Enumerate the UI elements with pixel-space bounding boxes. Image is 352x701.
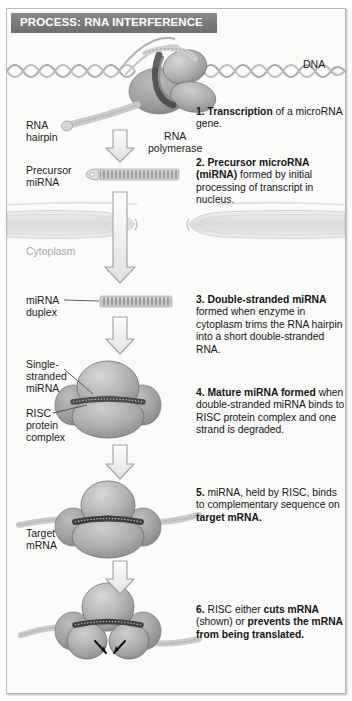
label-mirna-duplex: miRNA duplex [26, 294, 59, 318]
label-precursor-mirna: Precursor miRNA [26, 164, 72, 188]
flow-arrow-2-icon [105, 192, 135, 283]
leader-mirna-duplex [64, 300, 99, 301]
step-4-bold-lead: Mature miRNA formed [207, 387, 315, 398]
step-3-text: 3. Double-stranded miRNA formed when enz… [196, 294, 346, 356]
step-3-bold-lead: Double-stranded miRNA [207, 294, 326, 305]
label-single-stranded-mirna: Single- stranded miRNA [26, 358, 67, 395]
mirna-duplex-graphic [100, 296, 172, 307]
figure-panel: PROCESS: RNA INTERFERENCE [6, 8, 346, 694]
leader-lines [53, 300, 99, 413]
step-5-number: 5. [196, 487, 205, 498]
label-rna-hairpin: RNA hairpin [26, 119, 58, 143]
flow-arrow-3-icon [106, 317, 134, 354]
step-6-number: 6. [196, 604, 205, 615]
step-5-bold-tail: target mRNA. [196, 512, 262, 523]
risc-cutting-mrna-graphic [21, 583, 199, 659]
step-3-rest: formed when enzyme in cytoplasm trims th… [196, 306, 343, 354]
label-risc-protein-complex: RISC protein complex [26, 407, 65, 444]
flow-arrow-5-icon [106, 561, 134, 594]
nuclear-membrane-graphic [7, 203, 345, 239]
label-rna-polymerase: RNA polymerase [148, 130, 202, 154]
step-3-number: 3. [196, 294, 205, 305]
label-dna: DNA [303, 58, 325, 70]
rna-hairpin-graphic [62, 105, 138, 131]
flow-arrow-1-icon [106, 130, 134, 162]
step-6-plain-mid: (shown) or [196, 616, 248, 627]
step-2-number: 2. [196, 157, 205, 168]
precursor-mirna-graphic [86, 169, 179, 180]
step-5-plain-lead: miRNA, held by RISC, binds to complement… [196, 487, 340, 510]
step-2-text: 2. Precursor microRNA (miRNA) formed by … [196, 157, 346, 207]
step-1-number: 1. [196, 106, 205, 117]
step-5-text: 5. miRNA, held by RISC, binds to complem… [196, 487, 346, 524]
step-1-text: 1. Transcription of a microRNA gene. [196, 106, 346, 131]
risc-complex-step4-graphic [55, 361, 161, 438]
banner-title: PROCESS: RNA INTERFERENCE [20, 16, 203, 28]
step-6-bold-mid: cuts mRNA [264, 604, 320, 615]
cut-site-arrows-icon [95, 641, 125, 653]
step-4-text: 4. Mature miRNA formed when double-stran… [196, 387, 346, 437]
dna-helix-graphic [7, 38, 345, 77]
step-6-text: 6. RISC either cuts mRNA (shown) or prev… [196, 604, 346, 641]
step-4-number: 4. [196, 387, 205, 398]
flow-arrow-4-icon [106, 445, 134, 479]
label-cytoplasm: Cytoplasm [26, 245, 76, 257]
step-6-plain-lead: RISC either [205, 604, 264, 615]
leader-single-stranded-mirna [64, 369, 93, 394]
step-1-bold-lead: Transcription [207, 106, 272, 117]
label-target-mrna: Target mRNA [26, 527, 57, 551]
process-banner: PROCESS: RNA INTERFERENCE [11, 13, 217, 33]
